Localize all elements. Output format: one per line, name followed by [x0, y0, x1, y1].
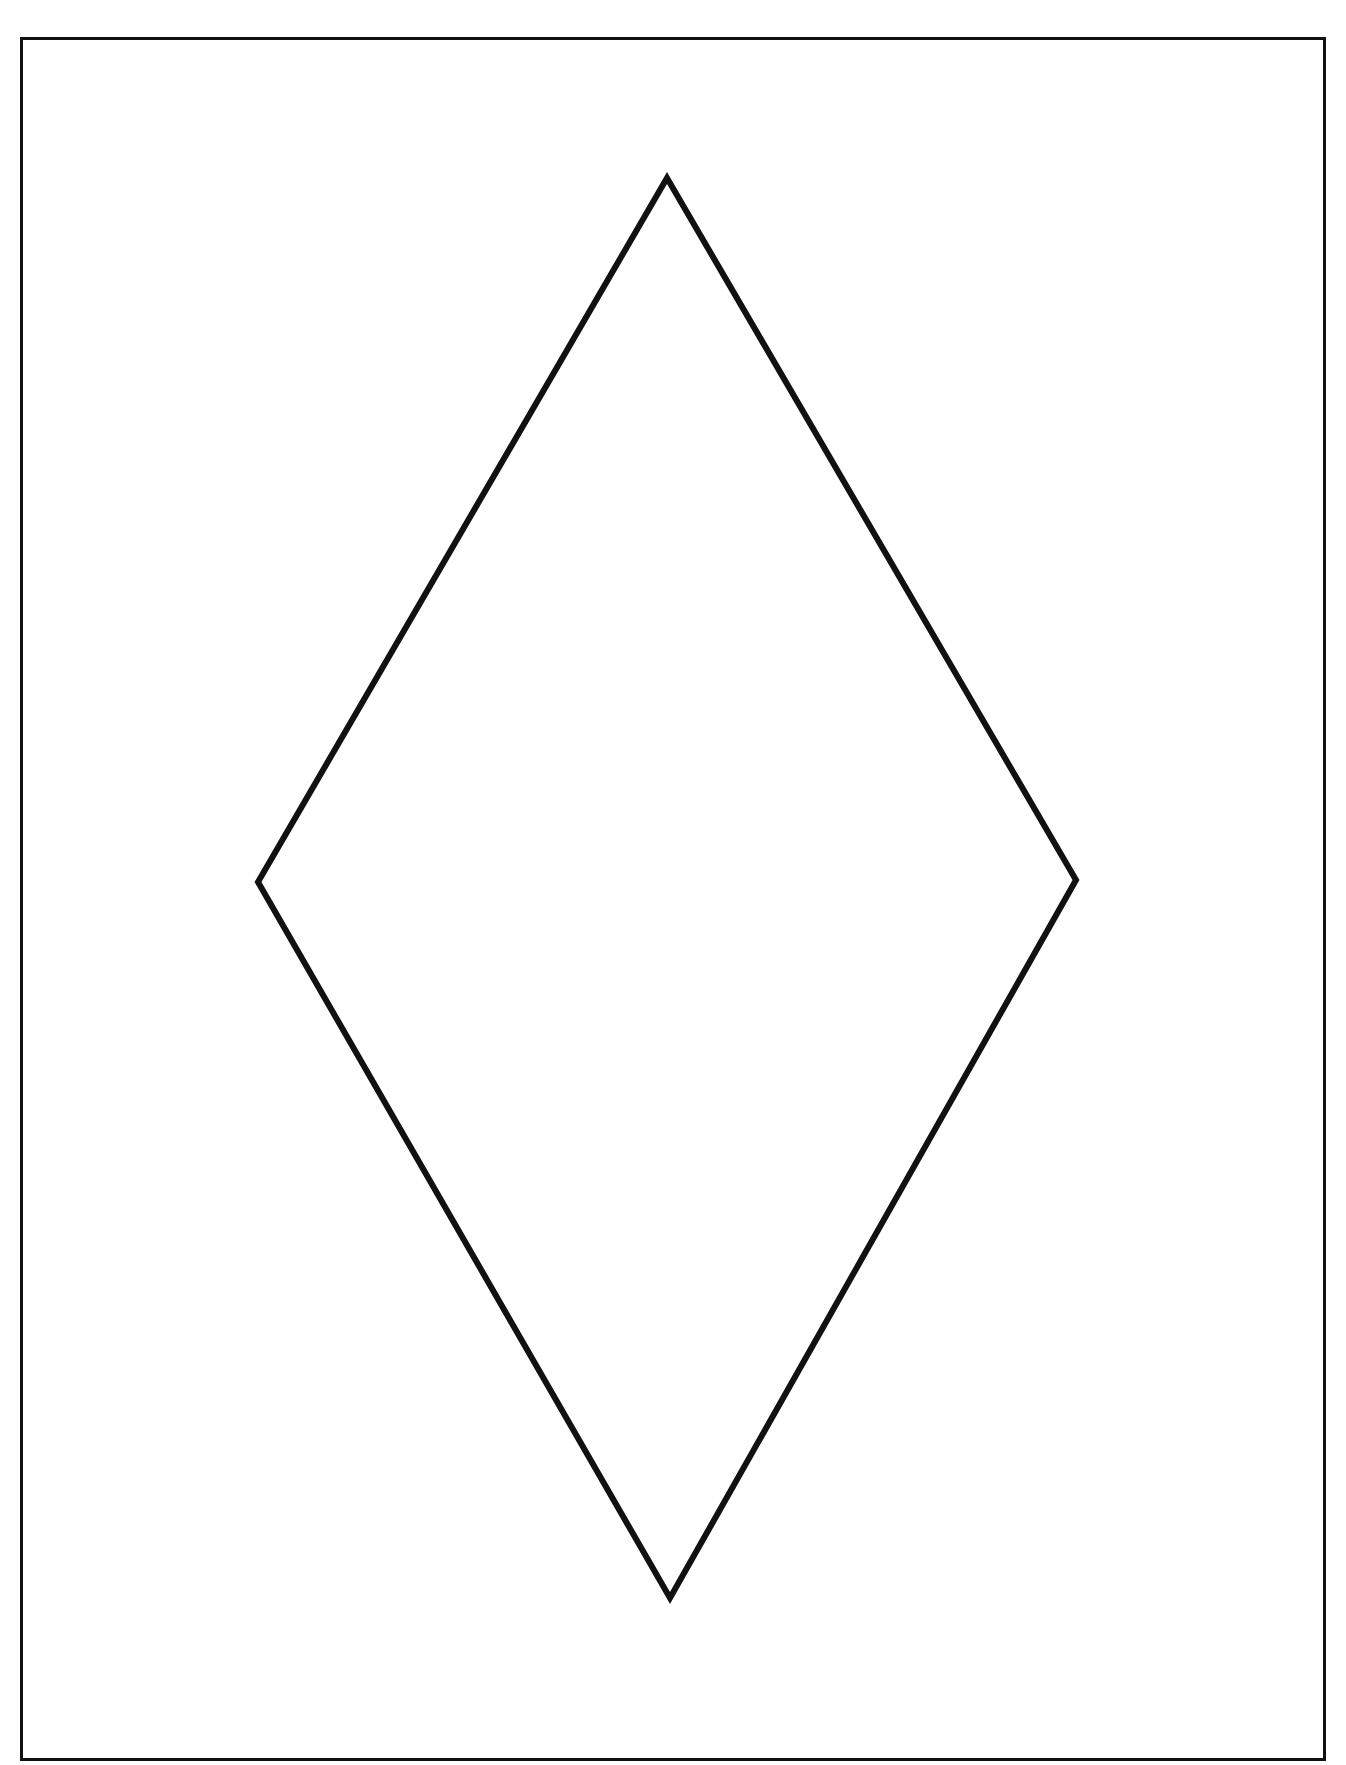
- diamond-shape: [258, 178, 1076, 1598]
- shape-layer: [0, 0, 1346, 1765]
- diagram-canvas: [0, 0, 1346, 1765]
